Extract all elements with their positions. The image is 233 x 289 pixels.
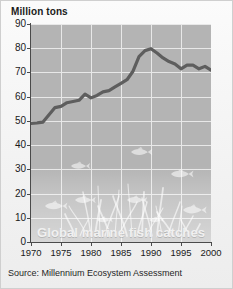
x-tick-mark — [181, 243, 182, 246]
x-tick-label: 1970 — [16, 248, 46, 258]
x-tick-mark — [91, 243, 92, 246]
y-tick-label: 40 — [2, 140, 26, 150]
y-tick-mark — [27, 121, 30, 122]
catch-series-line — [31, 24, 211, 242]
y-tick-mark — [27, 242, 30, 243]
plot-area — [31, 24, 211, 242]
y-tick-label: 10 — [2, 213, 26, 223]
chart-caption: Global marine fish catches — [37, 225, 205, 240]
y-tick-label: 30 — [2, 164, 26, 174]
y-tick-label: 20 — [2, 189, 26, 199]
y-tick-label: 0 — [2, 237, 26, 247]
x-tick-label: 1985 — [106, 248, 136, 258]
x-tick-mark — [121, 243, 122, 246]
y-tick-mark — [27, 218, 30, 219]
x-tick-label: 2000 — [196, 248, 226, 258]
x-tick-mark — [151, 243, 152, 246]
y-tick-mark — [27, 169, 30, 170]
y-tick-mark — [27, 48, 30, 49]
x-tick-label: 1990 — [136, 248, 166, 258]
y-tick-label: 60 — [2, 92, 26, 102]
x-tick-mark — [31, 243, 32, 246]
x-tick-mark — [61, 243, 62, 246]
y-tick-label: 80 — [2, 43, 26, 53]
y-tick-mark — [27, 97, 30, 98]
y-tick-mark — [27, 72, 30, 73]
y-axis-unit-label: Million tons — [11, 6, 68, 17]
y-tick-label: 90 — [2, 19, 26, 29]
y-tick-mark — [27, 24, 30, 25]
x-tick-label: 1995 — [166, 248, 196, 258]
y-axis-line — [30, 23, 31, 243]
y-tick-label: 50 — [2, 116, 26, 126]
source-note: Source: Millennium Ecosystem Assessment — [8, 268, 182, 278]
x-tick-label: 1980 — [76, 248, 106, 258]
y-tick-mark — [27, 145, 30, 146]
series-line — [31, 49, 211, 124]
x-tick-label: 1975 — [46, 248, 76, 258]
y-tick-label: 70 — [2, 67, 26, 77]
y-tick-mark — [27, 194, 30, 195]
figure-root: Million tons 0102030405060708090 1970197… — [0, 0, 233, 289]
x-tick-mark — [211, 243, 212, 246]
